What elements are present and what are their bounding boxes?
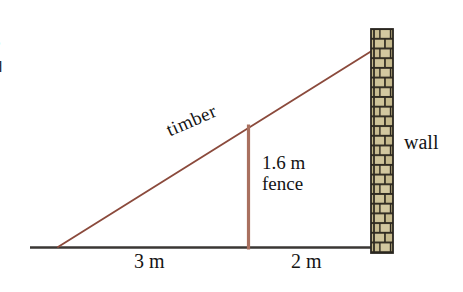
wall-label: wall — [404, 131, 438, 153]
diagram-canvas — [0, 0, 463, 292]
geometry-diagram: s d timber 1.6 m fence wall — [0, 0, 463, 292]
dimension-label-right: 2 m — [291, 250, 322, 272]
timber-line — [58, 47, 378, 247]
fence-annotation: 1.6 m fence — [262, 152, 305, 195]
fence-height-label: 1.6 m — [262, 152, 305, 173]
dimension-label-left: 3 m — [134, 250, 165, 272]
fence-label: fence — [262, 173, 305, 194]
brick-wall — [371, 29, 393, 253]
